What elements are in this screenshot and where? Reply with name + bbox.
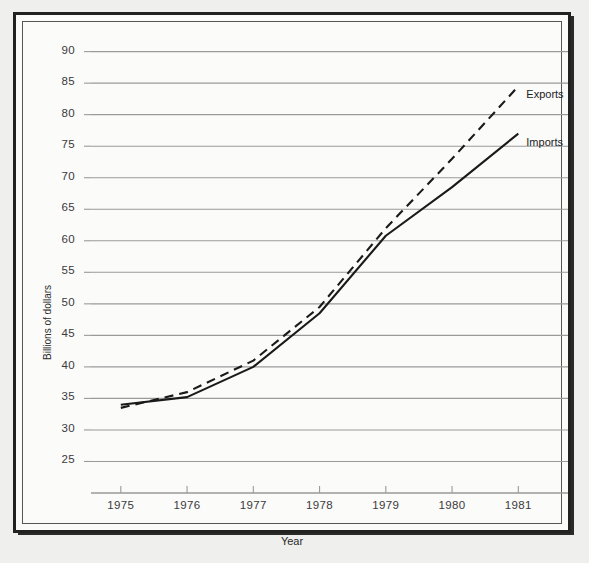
y-tick-label-40: 40 bbox=[41, 359, 75, 371]
chart-canvas bbox=[16, 15, 574, 536]
series-line-imports bbox=[121, 134, 519, 405]
y-tick-label-35: 35 bbox=[41, 390, 75, 402]
x-tick-label-1976: 1976 bbox=[163, 499, 211, 511]
chart-plot-area: Billions of dollars Year 253035404550556… bbox=[16, 15, 568, 530]
y-tick-label-60: 60 bbox=[41, 233, 75, 245]
y-tick-label-85: 85 bbox=[41, 75, 75, 87]
x-axis-title: Year bbox=[16, 535, 568, 547]
y-tick-label-90: 90 bbox=[41, 44, 75, 56]
x-tick-label-1979: 1979 bbox=[362, 499, 410, 511]
y-tick-label-65: 65 bbox=[41, 201, 75, 213]
y-tick-label-30: 30 bbox=[41, 422, 75, 434]
y-tick-label-80: 80 bbox=[41, 107, 75, 119]
y-tick-label-50: 50 bbox=[41, 296, 75, 308]
x-tick-label-1978: 1978 bbox=[296, 499, 344, 511]
x-tick-label-1977: 1977 bbox=[229, 499, 277, 511]
y-tick-label-45: 45 bbox=[41, 327, 75, 339]
series-label-exports: Exports bbox=[526, 88, 563, 100]
series-label-imports: Imports bbox=[526, 136, 563, 148]
y-tick-label-70: 70 bbox=[41, 170, 75, 182]
y-tick-label-55: 55 bbox=[41, 264, 75, 276]
y-tick-label-25: 25 bbox=[41, 453, 75, 465]
y-tick-label-75: 75 bbox=[41, 138, 75, 150]
series-line-exports bbox=[121, 86, 519, 408]
figure-page: Billions of dollars Year 253035404550556… bbox=[0, 0, 589, 563]
figure-frame-outer: Billions of dollars Year 253035404550556… bbox=[13, 12, 571, 533]
x-tick-label-1981: 1981 bbox=[494, 499, 542, 511]
x-tick-label-1980: 1980 bbox=[428, 499, 476, 511]
x-tick-label-1975: 1975 bbox=[97, 499, 145, 511]
